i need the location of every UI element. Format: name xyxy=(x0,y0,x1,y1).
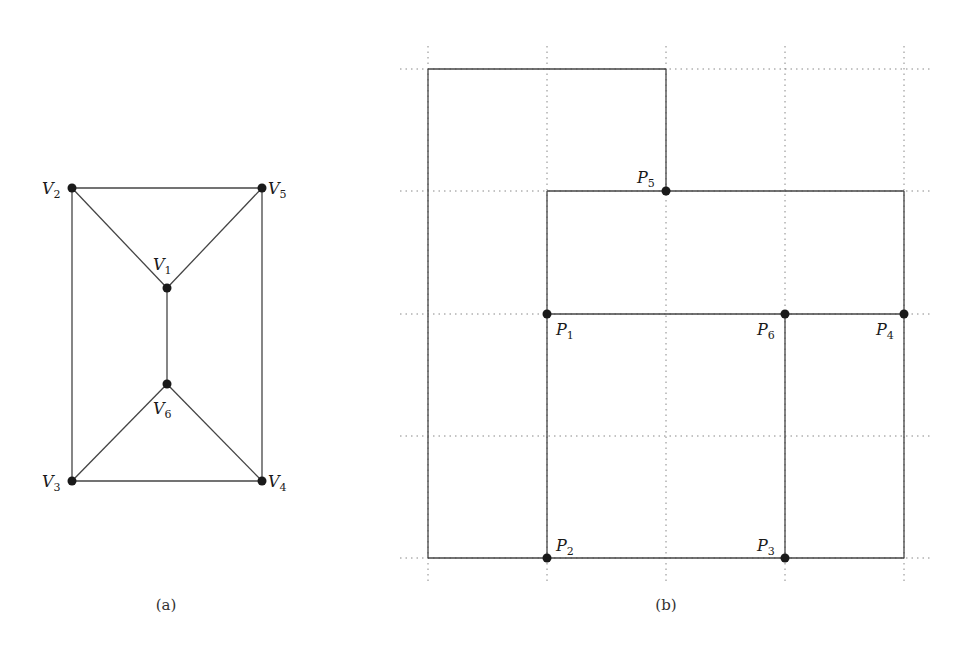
vertex-labels: V1V2V3V4V5V6 xyxy=(42,179,287,494)
vertex-label-v5: V5 xyxy=(268,179,287,201)
graph-edges xyxy=(72,188,262,481)
vertex-v6 xyxy=(163,380,172,389)
vertex-v5 xyxy=(258,184,267,193)
point-p3 xyxy=(781,554,790,563)
point-label-p2: P2 xyxy=(555,536,574,558)
vertex-v1 xyxy=(163,284,172,293)
point-p5 xyxy=(662,187,671,196)
vertex-label-v2: V2 xyxy=(42,179,61,201)
edge-v5-v1 xyxy=(167,188,262,288)
point-label-p4: P4 xyxy=(875,320,894,342)
point-label-p5: P5 xyxy=(636,168,655,190)
point-p4 xyxy=(900,310,909,319)
vertex-v3 xyxy=(68,477,77,486)
vertex-label-v4: V4 xyxy=(268,472,287,494)
point-labels: P1P2P3P4P5P6 xyxy=(555,168,894,558)
point-p2 xyxy=(543,554,552,563)
point-label-p1: P1 xyxy=(555,320,574,342)
caption-a: (a) xyxy=(156,596,177,614)
panel-b-grid-embedding: P1P2P3P4P5P6 (b) xyxy=(400,46,932,614)
embedding-points xyxy=(543,187,909,563)
vertex-label-v6: V6 xyxy=(153,399,172,421)
panel-a-graph: V1V2V3V4V5V6 (a) xyxy=(42,179,287,614)
caption-b: (b) xyxy=(655,596,676,614)
edge-v6-v4 xyxy=(167,384,262,481)
vertex-label-v1: V1 xyxy=(153,255,172,277)
point-label-p6: P6 xyxy=(756,320,775,342)
vertex-v4 xyxy=(258,477,267,486)
point-p6 xyxy=(781,310,790,319)
point-label-p3: P3 xyxy=(756,536,775,558)
vertex-v2 xyxy=(68,184,77,193)
point-p1 xyxy=(543,310,552,319)
figure-canvas: V1V2V3V4V5V6 (a) P1P2P3P4P5P6 (b) xyxy=(0,0,974,649)
vertex-label-v3: V3 xyxy=(42,472,61,494)
